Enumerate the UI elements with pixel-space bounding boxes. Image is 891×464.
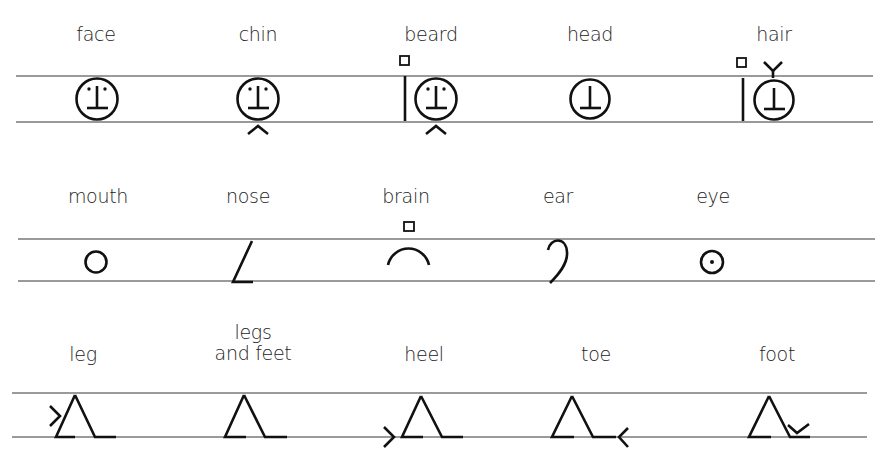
foot-symbol-icon — [0, 0, 891, 464]
